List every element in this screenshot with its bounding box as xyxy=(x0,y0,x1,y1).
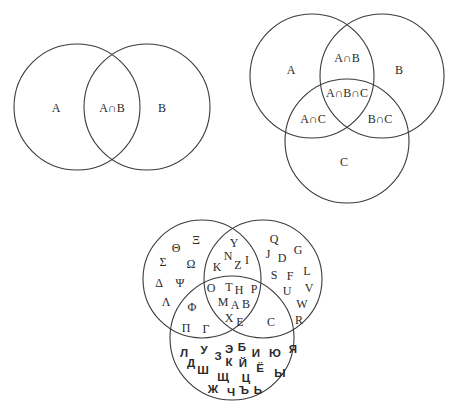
letter-latin-only: D xyxy=(278,251,287,265)
letter-latin-only: J xyxy=(266,247,271,261)
region-label: A∩C xyxy=(300,112,325,126)
letter-greek-latin: Z xyxy=(234,258,241,272)
region-label: A∩B xyxy=(334,51,359,65)
letter-cyrillic-only: Д xyxy=(187,357,195,369)
letter-greek-cyrillic: Γ xyxy=(203,322,210,336)
letter-greek-latin-cyrillic: O xyxy=(207,281,216,295)
venn-diagrams-canvas: AA∩BB AA∩BBA∩B∩CA∩CB∩CC ΘΞΣΩΔΨΛYNIKZOTHP… xyxy=(0,0,459,416)
region-label: A∩B∩C xyxy=(326,86,368,100)
alphabet-venn-diagram: ΘΞΣΩΔΨΛYNIKZOTHPMABXEΦΠΓQJDGLSFVUWRCЛУЭБ… xyxy=(143,220,322,400)
letter-cyrillic-only: З xyxy=(214,350,221,362)
letter-cyrillic-only: Б xyxy=(238,341,246,353)
letter-latin-only: G xyxy=(294,243,303,257)
letter-greek-cyrillic: Π xyxy=(182,321,191,335)
letter-greek-latin: K xyxy=(213,260,222,274)
letter-cyrillic-only: Ж xyxy=(207,383,219,395)
letter-greek-only: Ψ xyxy=(176,276,185,290)
letter-greek-latin-cyrillic: E xyxy=(236,315,243,329)
letter-latin-only: S xyxy=(271,268,278,282)
letter-greek-latin-cyrillic: B xyxy=(242,297,250,311)
three-set-venn-diagram: AA∩BBA∩B∩CA∩CB∩CC xyxy=(250,14,444,203)
letter-latin-only: U xyxy=(283,284,292,298)
letter-cyrillic-only: Ю xyxy=(269,347,281,359)
region-label: A∩B xyxy=(99,101,124,115)
letter-cyrillic-only: Ё xyxy=(256,362,264,374)
letter-greek-latin: Y xyxy=(230,236,239,250)
letter-greek-latin: N xyxy=(224,249,233,263)
region-label: B∩C xyxy=(368,112,393,126)
letter-cyrillic-only: Ы xyxy=(274,367,285,379)
letter-cyrillic-only: Ъ xyxy=(239,384,249,396)
letter-cyrillic-only: Ч xyxy=(227,386,235,398)
letter-latin-cyrillic: C xyxy=(267,315,275,329)
letter-greek-latin-cyrillic: H xyxy=(235,283,244,297)
letter-cyrillic-only: Щ xyxy=(217,371,229,383)
letter-cyrillic-only: Я xyxy=(289,343,297,355)
letter-cyrillic-only: У xyxy=(200,344,208,356)
letter-greek-cyrillic: Φ xyxy=(188,300,197,314)
two-set-venn-diagram: AA∩BB xyxy=(14,44,210,170)
letter-greek-latin-cyrillic: T xyxy=(225,280,233,294)
letter-cyrillic-only: Ш xyxy=(197,364,209,376)
letter-greek-latin-cyrillic: X xyxy=(225,311,234,325)
letter-cyrillic-only: К xyxy=(225,356,233,368)
letter-cyrillic-only: Ц xyxy=(242,372,251,384)
letter-cyrillic-only: И xyxy=(252,347,260,359)
alphabet-circle-latin xyxy=(204,220,322,338)
letter-greek-latin-cyrillic: P xyxy=(251,282,258,296)
letter-cyrillic-only: Э xyxy=(225,343,233,355)
letter-latin-only: Q xyxy=(270,232,279,246)
alphabet-circle-cyrillic xyxy=(170,276,294,400)
letter-latin-only: L xyxy=(303,264,310,278)
letter-latin-only: W xyxy=(296,297,308,311)
letter-greek-only: Ξ xyxy=(192,233,200,247)
letter-greek-only: Δ xyxy=(155,276,163,290)
letter-latin-only: V xyxy=(305,281,314,295)
letter-greek-only: Σ xyxy=(160,255,167,269)
letter-cyrillic-only: Ь xyxy=(254,384,262,396)
letter-greek-only: Λ xyxy=(162,295,171,309)
letter-greek-latin-cyrillic: A xyxy=(231,298,240,312)
letter-greek-latin-cyrillic: M xyxy=(218,295,229,309)
region-label: A xyxy=(287,63,296,77)
letter-greek-latin: I xyxy=(245,253,249,267)
letter-latin-only: R xyxy=(295,313,303,327)
letter-latin-only: F xyxy=(287,269,294,283)
region-label: B xyxy=(395,63,403,77)
region-label: A xyxy=(52,101,61,115)
region-label: B xyxy=(158,101,166,115)
letter-greek-only: Θ xyxy=(172,241,181,255)
region-label: C xyxy=(340,155,348,169)
letter-greek-only: Ω xyxy=(187,257,196,271)
letter-cyrillic-only: Й xyxy=(239,357,247,369)
